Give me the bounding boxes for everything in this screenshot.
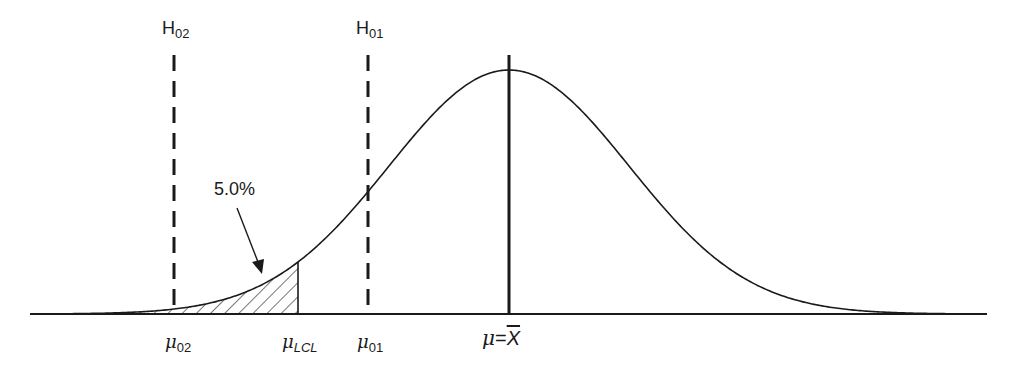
- shaded-tail-region: [30, 262, 298, 314]
- h02-label: H02: [162, 18, 189, 41]
- annotation-arrow-shaft: [237, 208, 258, 262]
- mu02-label: μ02: [165, 331, 191, 355]
- mu01-label: μ01: [357, 331, 383, 355]
- annotation-arrow-head: [252, 259, 264, 274]
- h01-label: H01: [356, 18, 383, 41]
- percent-label: 5.0%: [214, 179, 255, 200]
- mulcl-label: μLCL: [282, 331, 318, 355]
- mu-equals-xbar-label: μ=X: [482, 326, 520, 350]
- diagram-canvas: [0, 0, 1009, 377]
